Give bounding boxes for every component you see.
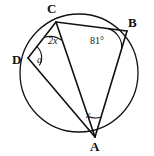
vertex-label-C: C [47,2,56,15]
angle-label-a: a [37,55,42,65]
vertex-label-A: A [90,140,99,153]
vertex-label-D: D [12,53,21,66]
angle-arc-B [108,29,121,50]
angle-label-81-degrees: 81° [90,36,104,46]
vertex-label-B: B [128,16,137,29]
angle-label-x: x [86,110,90,120]
geometry-figure: C B D A 2x 81° a x [0,0,154,156]
circumscribed-circle [20,14,138,132]
segment-DA [28,58,95,137]
angle-label-2x: 2x [48,36,57,46]
